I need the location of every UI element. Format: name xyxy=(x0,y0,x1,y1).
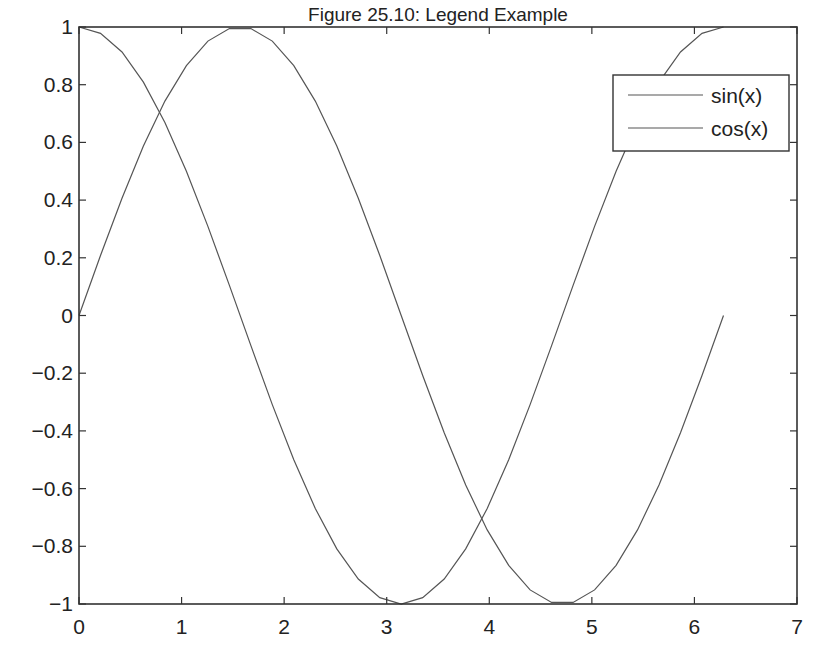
y-tick-label: 0.4 xyxy=(44,188,74,211)
x-tick-label: 4 xyxy=(483,615,495,638)
x-tick-label: 3 xyxy=(381,615,393,638)
y-tick-label: 0.8 xyxy=(44,73,73,96)
x-tick-label: 6 xyxy=(689,615,701,638)
x-tick-label: 1 xyxy=(176,615,188,638)
legend[interactable]: sin(x) cos(x) xyxy=(613,75,789,151)
y-tick-label: 0 xyxy=(61,304,73,327)
x-tick-label: 2 xyxy=(278,615,290,638)
y-tick-label: 1 xyxy=(61,15,73,38)
legend-label-sin: sin(x) xyxy=(711,84,762,107)
y-tick-label: 0.6 xyxy=(44,130,73,153)
y-tick-label: −0.8 xyxy=(32,534,73,557)
x-tick-label: 7 xyxy=(791,615,803,638)
x-tick-label: 0 xyxy=(73,615,85,638)
y-tick-label: −1 xyxy=(49,592,73,615)
x-tick-label: 5 xyxy=(586,615,598,638)
line-chart: Figure 25.10: Legend Example 01234567 −1… xyxy=(0,0,828,667)
y-tick-label: −0.6 xyxy=(32,477,73,500)
y-tick-label: −0.4 xyxy=(32,419,74,442)
y-tick-label: −0.2 xyxy=(32,361,73,384)
legend-label-cos: cos(x) xyxy=(711,117,768,140)
y-tick-label: 0.2 xyxy=(44,246,73,269)
y-axis-tick-labels: −1−0.8−0.6−0.4−0.200.20.40.60.81 xyxy=(32,15,74,615)
chart-title: Figure 25.10: Legend Example xyxy=(308,4,568,25)
x-axis-tick-labels: 01234567 xyxy=(73,615,803,638)
